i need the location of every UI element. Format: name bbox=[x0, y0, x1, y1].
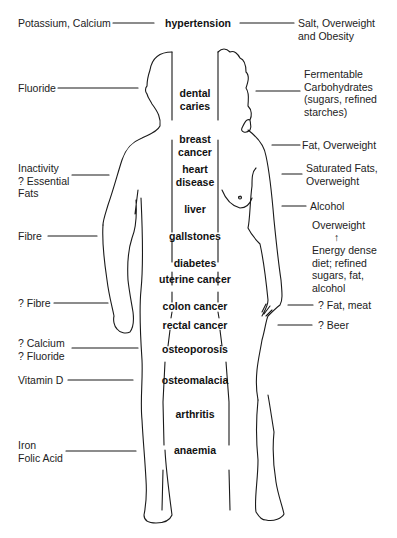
factor-q-fibre: ? Fibre bbox=[18, 297, 51, 310]
factor-beer: ? Beer bbox=[318, 319, 349, 332]
factor-fluoride: Fluoride bbox=[18, 82, 56, 95]
factor-fat-overweight: Fat, Overweight bbox=[302, 139, 376, 152]
disease-uterine-cancer: uterine cancer bbox=[155, 273, 235, 286]
right-shoulder-outline bbox=[248, 130, 282, 400]
right-leg-outline bbox=[255, 395, 284, 521]
factor-salt-overweight-obesity: Salt, Overweight and Obesity bbox=[298, 17, 375, 42]
left-leg-outline bbox=[140, 198, 172, 523]
disease-diabetes: diabetes bbox=[165, 257, 225, 270]
disease-breast-cancer: breast cancer bbox=[170, 133, 220, 158]
right-head-outline bbox=[218, 49, 251, 132]
disease-rectal-cancer: rectal cancer bbox=[155, 319, 235, 332]
factor-energy-dense-diet: Energy dense diet; refined sugars, fat, … bbox=[312, 244, 377, 294]
nipple bbox=[239, 196, 242, 199]
disease-anaemia: anaemia bbox=[160, 444, 230, 457]
disease-liver: liver bbox=[170, 203, 220, 216]
factor-alcohol: Alcohol bbox=[310, 200, 344, 213]
disease-dental-caries: dental caries bbox=[170, 87, 220, 112]
left-arm-outline bbox=[103, 190, 138, 333]
factor-saturated-fats: Saturated Fats, Overweight bbox=[306, 162, 378, 187]
factor-inactivity-essential-fats: Inactivity ? Essential Fats bbox=[18, 162, 69, 200]
factor-potassium-calcium: Potassium, Calcium bbox=[18, 17, 111, 30]
disease-colon-cancer: colon cancer bbox=[155, 300, 235, 313]
disease-osteomalacia: osteomalacia bbox=[155, 374, 235, 387]
breast-outline bbox=[222, 190, 252, 208]
factor-iron-folic-acid: Iron Folic Acid bbox=[18, 439, 63, 464]
diet-disease-body-diagram: hypertension Potassium, Calcium Fluoride… bbox=[0, 0, 397, 538]
arrow-up-icon: ↑ bbox=[334, 231, 339, 244]
factor-vitamin-d: Vitamin D bbox=[18, 374, 63, 387]
right-arm-inner bbox=[248, 168, 272, 316]
disease-osteoporosis: osteoporosis bbox=[155, 343, 235, 356]
factor-q-calcium-fluoride: ? Calcium ? Fluoride bbox=[18, 337, 65, 362]
disease-arthritis: arthritis bbox=[160, 408, 230, 421]
factor-overweight: Overweight bbox=[312, 219, 365, 232]
factor-fermentable-carbohydrates: Fermentable Carbohydrates (sugars, refin… bbox=[304, 68, 377, 118]
factor-fat-meat: ? Fat, meat bbox=[318, 299, 371, 312]
disease-gallstones: gallstones bbox=[165, 230, 225, 243]
disease-hypertension: hypertension bbox=[160, 17, 236, 30]
disease-heart-disease: heart disease bbox=[170, 163, 220, 188]
left-head-outline bbox=[103, 52, 172, 225]
factor-fibre: Fibre bbox=[18, 230, 42, 243]
